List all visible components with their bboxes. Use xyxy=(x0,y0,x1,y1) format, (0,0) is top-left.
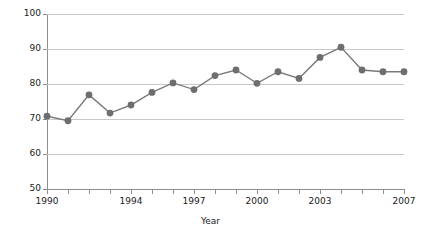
line-chart: 5060708090100 199019941997200020032007 P… xyxy=(0,0,421,244)
data-point xyxy=(191,86,198,93)
data-point xyxy=(296,75,303,82)
data-point xyxy=(317,54,324,61)
data-point xyxy=(44,113,51,120)
data-point xyxy=(107,110,114,117)
data-point xyxy=(212,72,219,79)
series-line xyxy=(47,47,404,121)
data-point xyxy=(254,80,261,87)
data-point xyxy=(86,91,93,98)
data-point xyxy=(149,89,156,96)
data-point xyxy=(401,68,408,75)
data-point xyxy=(233,67,240,74)
series-markers xyxy=(44,44,408,124)
data-point xyxy=(170,80,177,87)
data-point xyxy=(275,68,282,75)
data-point xyxy=(380,68,387,75)
data-point xyxy=(128,102,135,109)
data-point xyxy=(359,67,366,74)
series-plot xyxy=(0,0,421,244)
data-point xyxy=(65,117,72,124)
data-point xyxy=(338,44,345,51)
